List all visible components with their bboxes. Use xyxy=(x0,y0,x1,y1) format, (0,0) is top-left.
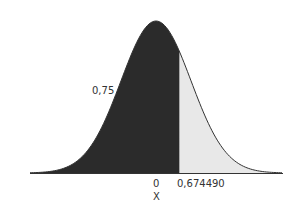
x-tick-quantile: 0,674490 xyxy=(177,178,225,189)
x-axis-label: X xyxy=(153,191,160,202)
shaded-area xyxy=(30,21,180,173)
x-tick-zero: 0 xyxy=(153,178,159,189)
normal-distribution-chart xyxy=(0,0,304,210)
unshaded-area xyxy=(180,52,282,173)
area-label: 0,75 xyxy=(92,85,114,96)
